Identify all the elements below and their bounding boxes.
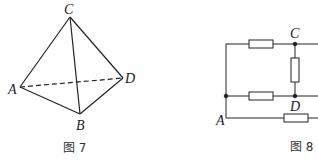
- node-c-dot: [293, 42, 297, 46]
- figure-7-caption: 图 7: [63, 141, 86, 155]
- edge-ab: [20, 87, 80, 114]
- vertex-label-c: C: [64, 2, 74, 17]
- vertex-label-d: D: [124, 71, 135, 86]
- resistor-mid: [249, 92, 273, 100]
- edge-bd: [80, 78, 123, 114]
- resistor-top: [249, 40, 273, 48]
- figure-8-circuit: [224, 40, 318, 122]
- edge-ad-hidden: [20, 78, 123, 87]
- vertex-label-a: A: [7, 82, 17, 97]
- figures-canvas: C A B D 图 7 C D A 图 8: [0, 0, 318, 162]
- resistor-cd: [291, 58, 299, 82]
- vertex-label-b: B: [76, 118, 85, 133]
- node-label-c: C: [290, 26, 300, 41]
- edge-ca: [20, 17, 70, 87]
- node-d-dot: [293, 94, 297, 98]
- figure-8-caption: 图 8: [290, 140, 313, 154]
- node-label-a: A: [215, 113, 225, 128]
- edge-cb: [70, 17, 80, 114]
- resistor-bottom: [284, 114, 308, 122]
- edge-cd: [70, 17, 123, 78]
- node-a-junction-dot: [224, 94, 228, 98]
- figure-7-tetrahedron: C A B D 图 7: [7, 2, 135, 155]
- node-label-d: D: [289, 99, 300, 114]
